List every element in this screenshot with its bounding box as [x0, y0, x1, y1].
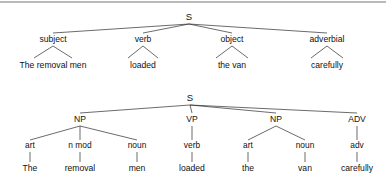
edge-np2-noun: [276, 126, 305, 140]
constituent-pos-art-2: art: [243, 140, 253, 150]
constituent-pos-adv: adv: [350, 140, 364, 150]
constituent-tree: S NP VP NP ADV art n mod noun verb art n…: [0, 88, 386, 185]
edge-verb-leaf-left: [128, 46, 143, 58]
figure-container: S subject verb object adverbial The remo…: [0, 0, 386, 185]
constituent-word-van: van: [298, 163, 312, 173]
edge-root-np1: [80, 105, 190, 113]
edge-object-leaf-right: [232, 46, 248, 58]
constituent-root-label: S: [187, 92, 193, 103]
constituent-pos-verb: verb: [184, 140, 201, 150]
constituent-category-vp: VP: [186, 114, 198, 124]
functional-tree: S subject verb object adverbial The remo…: [0, 0, 386, 90]
functional-root-label: S: [186, 11, 192, 22]
edge-np1-noun: [80, 126, 137, 140]
edge-verb-leaf-right: [143, 46, 158, 58]
edge-np1-art: [30, 126, 80, 140]
constituent-pos-noun-1: noun: [128, 140, 147, 150]
edge-subject-leaf-left: [34, 46, 53, 58]
edge-adverbial-leaf-left: [311, 46, 327, 58]
constituent-word-the-2: the: [242, 163, 254, 173]
constituent-word-loaded: loaded: [179, 163, 205, 173]
functional-node-subject: subject: [39, 34, 67, 44]
constituent-pos-art-1: art: [25, 140, 35, 150]
functional-node-adverbial: adverbial: [310, 34, 345, 44]
functional-leaf-adverbial: carefully: [311, 60, 344, 70]
functional-node-object: object: [221, 34, 245, 44]
constituent-pos-nmod: n mod: [68, 140, 92, 150]
edge-adverbial-leaf-right: [327, 46, 343, 58]
constituent-word-the-1: The: [23, 163, 38, 173]
functional-leaf-subject: The removal men: [20, 60, 87, 70]
edge-root-np2: [190, 105, 276, 113]
constituent-word-removal: removal: [65, 163, 96, 173]
constituent-category-adv: ADV: [348, 114, 366, 124]
constituent-category-np-1: NP: [74, 114, 86, 124]
constituent-pos-noun-2: noun: [296, 140, 315, 150]
constituent-word-carefully: carefully: [341, 163, 374, 173]
edge-root-adv: [190, 105, 357, 113]
constituent-category-np-2: NP: [270, 114, 282, 124]
edge-np2-art: [248, 126, 276, 140]
edge-object-leaf-left: [216, 46, 232, 58]
edge-root-subject: [53, 24, 189, 33]
functional-leaf-object: the van: [218, 60, 246, 70]
edge-subject-leaf-right: [53, 46, 72, 58]
functional-leaf-verb: loaded: [130, 60, 156, 70]
constituent-word-men: men: [129, 163, 146, 173]
functional-node-verb: verb: [135, 34, 152, 44]
edge-root-vp: [190, 105, 192, 113]
